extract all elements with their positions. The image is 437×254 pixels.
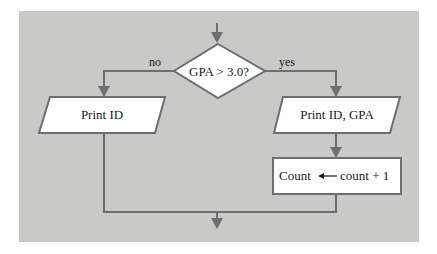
exit-arrowhead-icon xyxy=(211,218,223,229)
increment-label-right: count + 1 xyxy=(340,168,389,183)
no-label: no xyxy=(149,55,161,69)
entry-arrowhead-icon xyxy=(211,32,223,43)
print-id-gpa-label: Print ID, GPA xyxy=(300,107,374,122)
print-id-label: Print ID xyxy=(81,107,123,122)
no-branch-line xyxy=(104,71,174,88)
no-arrowhead-icon xyxy=(98,86,110,97)
increment-label-left: Count xyxy=(279,168,311,183)
increment-arrowhead-icon xyxy=(330,147,342,158)
yes-label: yes xyxy=(279,55,295,69)
decision-label: GPA > 3.0? xyxy=(189,64,249,79)
yes-branch-line xyxy=(265,71,336,88)
yes-arrowhead-icon xyxy=(330,86,342,97)
flowchart: GPA > 3.0? no yes Print ID Print ID, GPA… xyxy=(0,0,437,254)
